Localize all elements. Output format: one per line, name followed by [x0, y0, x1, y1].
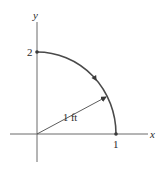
point-y-intercept	[35, 50, 39, 54]
y-axis-label: y	[32, 9, 38, 21]
x-tick-label: 1	[113, 138, 119, 150]
point-x-intercept	[114, 132, 118, 136]
diagram-canvas: y x 2 1 1 ft	[0, 0, 165, 172]
y-tick-label: 2	[27, 46, 33, 58]
x-axis-label: x	[149, 128, 155, 140]
radius-label: 1 ft	[63, 112, 77, 123]
